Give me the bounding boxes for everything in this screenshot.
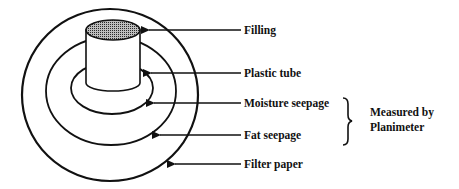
seepage-diagram: Filling Plastic tube Moisture seepage Fa…	[0, 0, 459, 189]
bracket-note-line2: Planimeter	[370, 121, 424, 133]
curly-brace	[343, 98, 352, 145]
filling-top	[86, 20, 140, 40]
plastic-tube	[86, 20, 140, 91]
label-filling: Filling	[244, 24, 276, 37]
label-filter-paper: Filter paper	[244, 158, 303, 171]
label-moisture-seepage: Moisture seepage	[244, 97, 329, 110]
label-plastic-tube: Plastic tube	[244, 67, 301, 79]
label-fat-seepage: Fat seepage	[244, 129, 301, 142]
bracket-note-line1: Measured by	[370, 106, 434, 119]
